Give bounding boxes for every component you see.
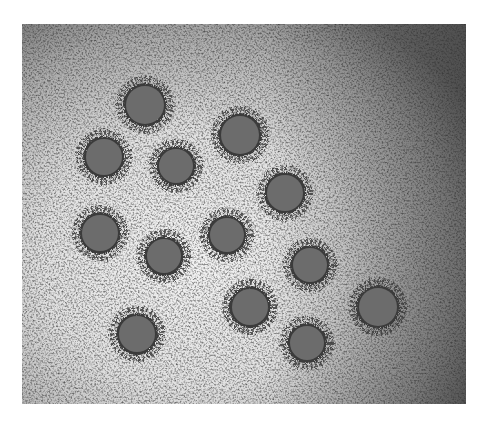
- virus-micrograph: [22, 24, 466, 404]
- micrograph-canvas: [22, 24, 466, 404]
